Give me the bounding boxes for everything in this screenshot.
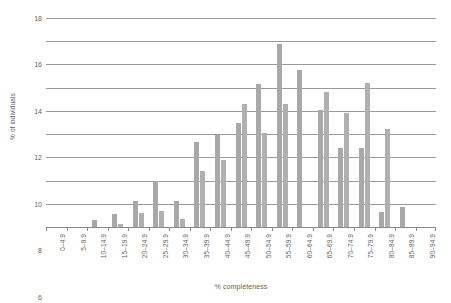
bar <box>400 207 405 227</box>
bar-group <box>128 18 149 227</box>
bar-group <box>190 18 211 227</box>
x-axis-label-cell: 35–39.9 <box>190 234 211 278</box>
x-axis-tick <box>416 227 437 232</box>
plot-area: 181614121086420 <box>46 18 436 227</box>
y-tick-label: 8 <box>38 247 42 254</box>
bar <box>365 83 370 227</box>
bar <box>283 104 288 227</box>
bar <box>318 110 323 227</box>
x-axis-label-text: 65–69.9 <box>326 234 333 258</box>
bar-group <box>375 18 396 227</box>
bar <box>153 181 158 227</box>
x-axis-tick <box>375 227 396 232</box>
bar-group <box>169 18 190 227</box>
x-axis-label-cell: 70–74.9 <box>333 234 354 278</box>
x-axis-label-cell: 60–64.9 <box>292 234 313 278</box>
bar <box>221 160 226 227</box>
x-axis-tick <box>46 227 67 232</box>
bar <box>159 211 164 227</box>
x-axis-tick <box>272 227 293 232</box>
bar <box>174 201 179 227</box>
bar-group <box>210 18 231 227</box>
bar <box>92 220 97 227</box>
x-axis-tick <box>169 227 190 232</box>
x-axis-tick <box>354 227 375 232</box>
x-axis-label-text: 55–59.9 <box>285 234 292 258</box>
bar <box>359 148 364 227</box>
x-axis-label-cell: 50–54.9 <box>251 234 272 278</box>
x-axis-label-text: 80–84.9 <box>388 234 395 258</box>
x-axis-label-text: 35–39.9 <box>203 234 210 258</box>
bar <box>180 219 185 227</box>
bars-layer <box>46 18 436 227</box>
x-axis-tick <box>333 227 354 232</box>
x-axis-label-text: 15–19.9 <box>121 234 128 258</box>
bar <box>297 70 302 227</box>
bar-group <box>272 18 293 227</box>
x-axis-label-text: 40–44.9 <box>224 234 231 258</box>
x-axis-label-cell: 45–49.9 <box>231 234 252 278</box>
bar-group <box>333 18 354 227</box>
bar <box>118 224 123 227</box>
x-axis-label-cell: 65–69.9 <box>313 234 334 278</box>
bar <box>242 104 247 227</box>
bar <box>200 171 205 227</box>
x-axis-label-text: 30–34.9 <box>182 234 189 258</box>
bar <box>338 148 343 227</box>
x-axis-label-text: 70–74.9 <box>347 234 354 258</box>
x-axis-label-cell: 5–9.9 <box>67 234 88 278</box>
bar <box>194 142 199 227</box>
x-axis-tick <box>251 227 272 232</box>
histogram-chart: % of individuals 181614121086420 0–4.95–… <box>0 0 451 303</box>
bar-group <box>313 18 334 227</box>
bar <box>112 214 117 227</box>
x-axis-title: % completeness <box>46 283 436 290</box>
bar <box>324 92 329 227</box>
bar-group <box>395 18 416 227</box>
y-tick-label: 6 <box>38 293 42 300</box>
x-axis-tick <box>313 227 334 232</box>
bar <box>344 113 349 227</box>
x-axis-labels: 0–4.95–9.910–14.915–19.920–24.925–29.930… <box>46 234 436 278</box>
x-axis-label-cell: 85–89.9 <box>395 234 416 278</box>
x-axis-label-text: 45–49.9 <box>244 234 251 258</box>
bar-group <box>231 18 252 227</box>
bar <box>139 213 144 228</box>
x-axis-label-text: 60–64.9 <box>306 234 313 258</box>
bar-group <box>251 18 272 227</box>
x-axis-tick <box>210 227 231 232</box>
x-axis-tick <box>87 227 108 232</box>
x-axis-ticks <box>46 227 436 232</box>
y-tick-label: 12 <box>34 154 42 161</box>
x-axis-label-cell: 30–34.9 <box>169 234 190 278</box>
bar <box>236 123 241 228</box>
x-axis-label-text: 25–29.9 <box>162 234 169 258</box>
y-tick-label: 14 <box>34 107 42 114</box>
y-tick-label: 10 <box>34 200 42 207</box>
bar-group <box>46 18 67 227</box>
x-axis-label-cell: 20–24.9 <box>128 234 149 278</box>
bar <box>133 201 138 227</box>
bar <box>215 135 220 227</box>
bar-group <box>416 18 437 227</box>
x-axis-label-text: 10–14.9 <box>100 234 107 258</box>
bar <box>385 129 390 227</box>
bar-group <box>292 18 313 227</box>
x-axis-tick <box>395 227 416 232</box>
x-axis-label-cell: 55–59.9 <box>272 234 293 278</box>
x-axis-label-text: 50–54.9 <box>265 234 272 258</box>
x-axis-label-cell: 90–94.9 <box>416 234 437 278</box>
x-axis-tick <box>128 227 149 232</box>
x-axis-label-text: 5–9.9 <box>80 234 87 251</box>
x-axis-label-cell: 25–29.9 <box>149 234 170 278</box>
bar <box>379 212 384 227</box>
x-axis-tick <box>190 227 211 232</box>
y-tick-label: 16 <box>34 61 42 68</box>
x-axis-label-text: 85–89.9 <box>408 234 415 258</box>
bar <box>262 133 267 227</box>
bar <box>256 84 261 227</box>
x-axis-tick <box>292 227 313 232</box>
x-axis-label-cell: 40–44.9 <box>210 234 231 278</box>
x-axis-label-cell: 0–4.9 <box>46 234 67 278</box>
x-axis-label-cell: 15–19.9 <box>108 234 129 278</box>
